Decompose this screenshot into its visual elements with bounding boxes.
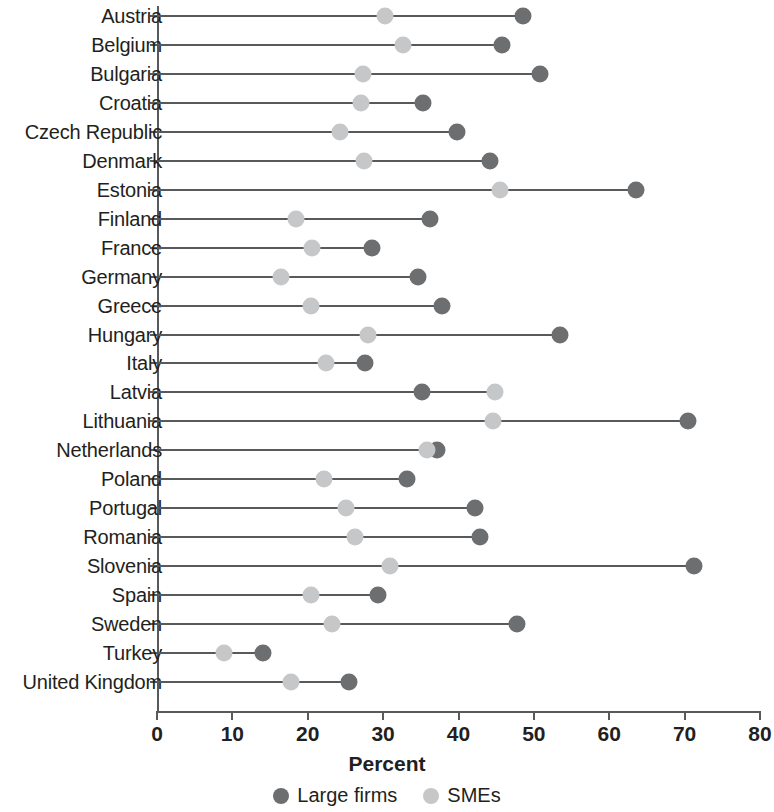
data-point-smes (272, 268, 289, 285)
y-axis-label: Latvia (110, 381, 162, 404)
data-point-smes (354, 65, 371, 82)
data-point-smes (315, 471, 332, 488)
data-point-large-firms (551, 326, 568, 343)
y-axis-label: Romania (83, 526, 162, 549)
data-point-large-firms (369, 587, 386, 604)
data-point-large-firms (679, 413, 696, 430)
x-axis-tick-label: 70 (673, 722, 696, 746)
x-axis-tick (307, 711, 309, 720)
x-axis-tick (231, 711, 233, 720)
data-point-smes (352, 94, 369, 111)
data-point-large-firms (448, 123, 465, 140)
y-axis-label: Slovenia (87, 555, 162, 578)
data-point-smes (332, 123, 349, 140)
y-axis-label: Turkey (103, 642, 162, 665)
x-axis-tick-label: 30 (371, 722, 394, 746)
y-axis-label: Croatia (99, 91, 162, 114)
data-point-smes (287, 210, 304, 227)
data-point-smes (486, 384, 503, 401)
data-point-smes (302, 587, 319, 604)
legend-item: Large firms (273, 784, 397, 807)
x-axis-tick-label: 50 (522, 722, 545, 746)
legend-label: Large firms (297, 784, 397, 807)
x-axis-tick-label: 10 (221, 722, 244, 746)
row-connector-line (157, 305, 442, 307)
data-point-large-firms (531, 65, 548, 82)
y-axis-label: Spain (112, 584, 162, 607)
legend-swatch-icon (423, 788, 439, 804)
y-axis-label: Portugal (89, 497, 162, 520)
y-axis-label: Denmark (82, 149, 162, 172)
row-connector-line (157, 449, 437, 451)
data-point-smes (347, 529, 364, 546)
data-point-large-firms (415, 94, 432, 111)
data-point-large-firms (508, 616, 525, 633)
y-axis-label: Netherlands (56, 439, 162, 462)
x-axis-tick-label: 20 (296, 722, 319, 746)
x-axis-tick-label: 60 (598, 722, 621, 746)
data-point-large-firms (399, 471, 416, 488)
y-axis-label: Bulgaria (90, 62, 162, 85)
data-point-large-firms (686, 558, 703, 575)
legend-swatch-icon (273, 788, 289, 804)
chart-legend: Large firmsSMEs (0, 784, 774, 807)
data-point-large-firms (514, 8, 531, 25)
y-axis-label: United Kingdom (22, 671, 162, 694)
x-axis-tick-label: 40 (447, 722, 470, 746)
row-connector-line (157, 565, 694, 567)
data-point-large-firms (363, 239, 380, 256)
data-point-smes (356, 152, 373, 169)
y-axis-label: Poland (101, 468, 162, 491)
y-axis-label: Estonia (97, 178, 162, 201)
y-axis-label: Lithuania (83, 410, 162, 433)
x-axis-tick-label: 0 (151, 722, 163, 746)
row-connector-line (157, 507, 475, 509)
row-connector-line (157, 15, 523, 17)
data-point-smes (338, 500, 355, 517)
data-point-smes (376, 8, 393, 25)
data-point-smes (304, 239, 321, 256)
data-point-smes (283, 674, 300, 691)
data-point-large-firms (421, 210, 438, 227)
row-connector-line (157, 478, 407, 480)
data-point-smes (302, 297, 319, 314)
row-connector-line (157, 594, 378, 596)
row-connector-line (157, 536, 480, 538)
data-point-smes (381, 558, 398, 575)
x-axis-tick (608, 711, 610, 720)
y-axis-label: Czech Republic (25, 120, 162, 143)
row-connector-line (157, 73, 540, 75)
data-point-large-firms (254, 645, 271, 662)
data-point-smes (360, 326, 377, 343)
data-point-large-firms (471, 529, 488, 546)
data-point-large-firms (494, 36, 511, 53)
data-point-large-firms (413, 384, 430, 401)
data-point-smes (216, 645, 233, 662)
row-connector-line (157, 131, 457, 133)
x-axis-tick (684, 711, 686, 720)
data-point-large-firms (409, 268, 426, 285)
x-axis-tick (533, 711, 535, 720)
row-connector-line (157, 102, 423, 104)
legend-label: SMEs (447, 784, 500, 807)
data-point-large-firms (341, 674, 358, 691)
row-connector-line (157, 681, 349, 683)
data-point-large-firms (482, 152, 499, 169)
row-connector-line (157, 391, 495, 393)
y-axis-label: Austria (101, 5, 162, 28)
row-connector-line (157, 160, 490, 162)
row-connector-line (157, 44, 502, 46)
legend-item: SMEs (423, 784, 500, 807)
row-connector-line (157, 189, 636, 191)
row-connector-line (157, 420, 688, 422)
x-axis-tick (759, 711, 761, 720)
data-point-smes (323, 616, 340, 633)
data-point-smes (485, 413, 502, 430)
data-point-large-firms (357, 355, 374, 372)
data-point-smes (418, 442, 435, 459)
data-point-large-firms (627, 181, 644, 198)
data-point-smes (394, 36, 411, 53)
y-axis-label: Germany (81, 265, 162, 288)
y-axis-label: Hungary (88, 323, 162, 346)
data-point-smes (317, 355, 334, 372)
